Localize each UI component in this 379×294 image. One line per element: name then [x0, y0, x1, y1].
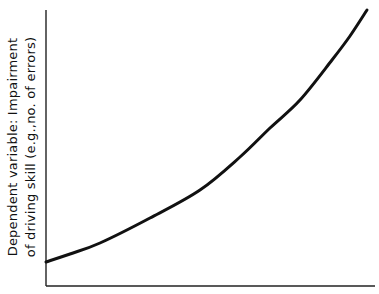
- chart: [0, 0, 379, 294]
- y-axis-label: Dependent variable: Impairment of drivin…: [0, 0, 44, 294]
- y-axis-label-line-2: of driving skill (e.g.,no. of errors): [22, 37, 40, 257]
- y-axis-label-line-1: Dependent variable: Impairment: [4, 38, 22, 257]
- data-curve: [46, 10, 367, 262]
